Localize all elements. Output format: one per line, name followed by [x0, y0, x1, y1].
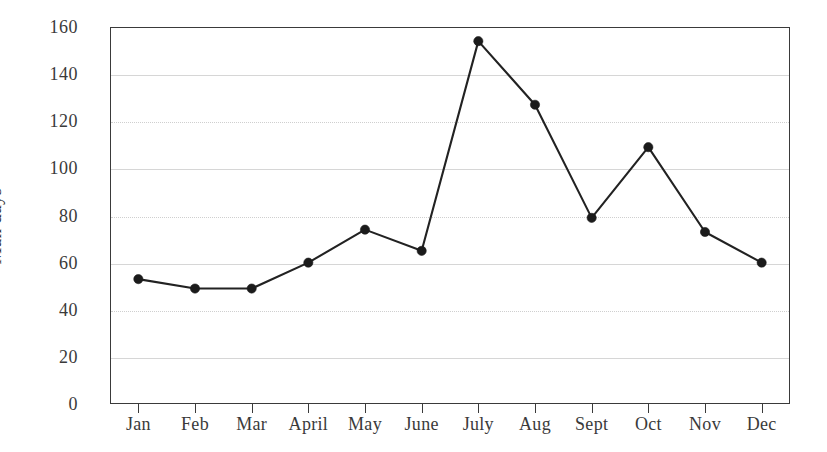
y-tick-label-60: 60	[8, 252, 78, 273]
x-tick-label-dec: Dec	[717, 414, 807, 435]
y-tick-label-20: 20	[8, 346, 78, 367]
y-tick-label-80: 80	[8, 205, 78, 226]
plot-area	[110, 27, 790, 404]
x-tick-feb	[195, 404, 196, 413]
y-tick-label-160: 160	[8, 17, 78, 38]
y-tick-label-120: 120	[8, 111, 78, 132]
x-tick-nov	[705, 404, 706, 413]
x-tick-june	[422, 404, 423, 413]
x-tick-july	[478, 404, 479, 413]
gridline-120	[111, 122, 789, 123]
x-tick-sept	[592, 404, 593, 413]
gridline-140	[111, 75, 789, 76]
x-tick-aug	[535, 404, 536, 413]
gridline-60	[111, 264, 789, 265]
x-tick-oct	[648, 404, 649, 413]
gridline-20	[111, 358, 789, 359]
x-tick-april	[308, 404, 309, 413]
x-tick-jan	[138, 404, 139, 413]
gridline-80	[111, 217, 789, 218]
x-tick-dec	[762, 404, 763, 413]
y-axis-title-label: Man days	[0, 188, 6, 265]
x-tick-mar	[252, 404, 253, 413]
gridline-100	[111, 169, 789, 170]
x-tick-may	[365, 404, 366, 413]
y-tick-label-140: 140	[8, 64, 78, 85]
line-chart: Man days 020406080100120140160 JanFebMar…	[0, 0, 827, 452]
y-tick-label-100: 100	[8, 158, 78, 179]
gridline-40	[111, 311, 789, 312]
y-tick-label-40: 40	[8, 299, 78, 320]
y-tick-label-0: 0	[8, 394, 78, 415]
